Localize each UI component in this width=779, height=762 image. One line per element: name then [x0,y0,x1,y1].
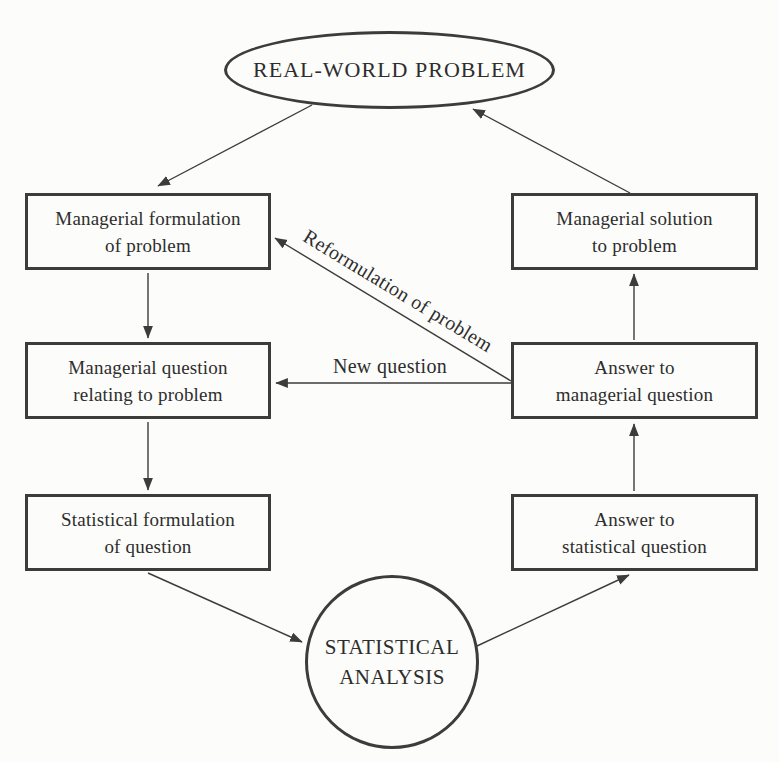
answer-statistical-line2: statistical question [562,533,707,560]
statistical-formulation-line1: Statistical formulation [61,506,235,533]
edge-label-new-question: New question [333,355,447,378]
statistical-formulation-line2: of question [104,533,191,560]
arrow-statistical-formulation-to-analysis [148,573,302,642]
managerial-question-line2: relating to problem [73,381,222,408]
node-real-world-problem: REAL-WORLD PROBLEM [224,31,555,109]
answer-managerial-line2: managerial question [556,381,713,408]
node-managerial-solution: Managerial solution to problem [511,193,758,270]
edge-label-reformulation: Reformulation of problem [299,225,497,357]
arrow-problem-to-managerial-formulation [158,105,312,186]
node-managerial-question: Managerial question relating to problem [25,342,271,419]
node-answer-managerial: Answer to managerial question [511,342,758,419]
flowchart-canvas: REAL-WORLD PROBLEM Managerial formulatio… [0,0,779,762]
managerial-formulation-line2: of problem [105,232,191,259]
statistical-analysis-line2: ANALYSIS [339,662,445,692]
arrow-managerial-solution-to-problem [473,109,630,193]
managerial-question-line1: Managerial question [68,354,227,381]
managerial-solution-line2: to problem [592,232,677,259]
node-managerial-formulation: Managerial formulation of problem [25,193,271,270]
managerial-formulation-line1: Managerial formulation [55,205,240,232]
node-statistical-analysis: STATISTICAL ANALYSIS [305,575,479,749]
answer-managerial-line1: Answer to [594,354,674,381]
node-answer-statistical: Answer to statistical question [511,494,758,571]
statistical-analysis-line1: STATISTICAL [325,632,459,662]
answer-statistical-line1: Answer to [594,506,674,533]
arrow-analysis-to-statistical-answer [477,575,629,646]
node-statistical-formulation: Statistical formulation of question [25,494,271,571]
real-world-problem-label: REAL-WORLD PROBLEM [253,57,526,83]
managerial-solution-line1: Managerial solution [556,205,712,232]
